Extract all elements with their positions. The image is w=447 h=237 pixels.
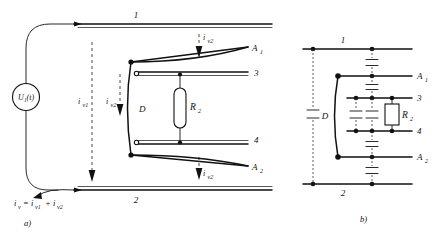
- label-resistor-r2-b: R 2: [401, 110, 413, 122]
- current-iv2-top-arrow: [196, 34, 203, 58]
- capacitor-1-a1-b: [366, 49, 378, 76]
- rail-a2-b: [335, 154, 412, 160]
- current-iv1-arrow: [89, 42, 96, 182]
- capacitor-inner-left-b: [350, 98, 362, 131]
- capacitor-a2-2-b: [366, 157, 378, 184]
- caption-panel-b: b): [360, 214, 367, 224]
- svg-text:v1: v1: [35, 204, 41, 210]
- inner-conductor-4: [134, 140, 248, 144]
- label-resistor-r2-a: R 2: [189, 102, 201, 114]
- svg-text:i: i: [14, 198, 17, 208]
- plate-a1: [131, 47, 248, 62]
- capacitor-a1-3-b: [366, 76, 378, 98]
- resistor-r2-panel-b: [385, 98, 399, 131]
- label-rail-1-b: 1: [341, 35, 346, 45]
- svg-text:v2: v2: [57, 204, 63, 210]
- label-conductor-1-a: 1: [134, 10, 139, 20]
- svg-text:+: +: [45, 198, 51, 208]
- svg-text:v2: v2: [208, 174, 214, 180]
- capacitor-3-4-b: [366, 98, 378, 131]
- source-loop: [13, 24, 76, 190]
- svg-text:2: 2: [410, 116, 413, 122]
- coupling-spine-d-b: [335, 76, 339, 157]
- svg-text:2: 2: [198, 108, 201, 114]
- svg-text:i: i: [203, 169, 205, 178]
- current-iv2-mid-arrow: [117, 74, 124, 116]
- svg-text:=: =: [23, 198, 29, 208]
- svg-text:i: i: [78, 97, 80, 106]
- label-conductor-2-a: 2: [134, 195, 139, 205]
- label-current-iv2-bottom: i v2: [203, 169, 213, 180]
- label-plate-a1: A 1: [251, 43, 263, 55]
- resistor-r2-panel-a: [174, 72, 186, 144]
- svg-text:i: i: [203, 33, 205, 42]
- svg-text:2: 2: [425, 158, 428, 164]
- svg-text:1: 1: [260, 49, 263, 55]
- capacitor-4-a2-b: [366, 131, 378, 157]
- capacitor-left-outer-b: [307, 49, 319, 184]
- svg-text:v: v: [18, 204, 21, 210]
- svg-text:i: i: [53, 198, 56, 208]
- label-rail-2-b: 2: [341, 188, 346, 198]
- plate-a2: [131, 155, 248, 166]
- rail-a1-b: [335, 73, 412, 79]
- label-gap-d-b: D: [321, 111, 329, 121]
- equation-total-current: i v = i v1 + i v2: [14, 198, 63, 210]
- svg-text:R: R: [189, 102, 196, 112]
- rail-4-b: [347, 129, 412, 134]
- conductor-2: [74, 187, 272, 193]
- label-gap-d-a: D: [138, 104, 146, 114]
- svg-text:i: i: [31, 198, 34, 208]
- label-rail-3-b: 3: [416, 93, 422, 103]
- svg-text:R: R: [401, 110, 408, 120]
- label-current-iv2-top: i v2: [203, 33, 213, 44]
- figure-root: U₁(t) 1 2 3 4 A 1 A 2 D R 2 i v1: [0, 0, 447, 237]
- inner-conductor-3: [134, 71, 248, 75]
- svg-text:i: i: [106, 97, 108, 106]
- svg-text:A: A: [251, 43, 258, 53]
- label-inner-3-a: 3: [253, 68, 259, 78]
- voltage-source-label: U₁(t): [18, 93, 34, 102]
- label-plate-a2-b: A 2: [416, 152, 428, 164]
- panel-b: 1 2 A 1 3 4 A 2 D R 2 b): [303, 35, 428, 224]
- panel-a: U₁(t) 1 2 3 4 A 1 A 2 D R 2 i v1: [13, 10, 273, 228]
- svg-text:A: A: [251, 162, 258, 172]
- technical-diagram-svg: U₁(t) 1 2 3 4 A 1 A 2 D R 2 i v1: [0, 0, 447, 237]
- label-current-iv1: i v1: [78, 97, 88, 108]
- conductor-1: [74, 22, 272, 28]
- svg-text:v2: v2: [208, 38, 214, 44]
- svg-text:A: A: [416, 71, 423, 81]
- svg-text:A: A: [416, 152, 423, 162]
- svg-text:v1: v1: [83, 102, 89, 108]
- caption-panel-a: a): [24, 218, 31, 228]
- rail-2-b: [303, 182, 412, 187]
- rail-3-b: [347, 96, 412, 101]
- label-plate-a1-b: A 1: [416, 71, 428, 83]
- label-current-iv2-mid: i v2: [106, 97, 116, 108]
- coupling-body-D: [128, 59, 134, 157]
- svg-text:1: 1: [425, 77, 428, 83]
- svg-text:v2: v2: [111, 102, 117, 108]
- label-rail-4-b: 4: [417, 126, 422, 136]
- label-plate-a2: A 2: [251, 162, 263, 174]
- label-inner-4-a: 4: [254, 135, 259, 145]
- rail-1-b: [303, 47, 412, 52]
- svg-text:2: 2: [260, 168, 263, 174]
